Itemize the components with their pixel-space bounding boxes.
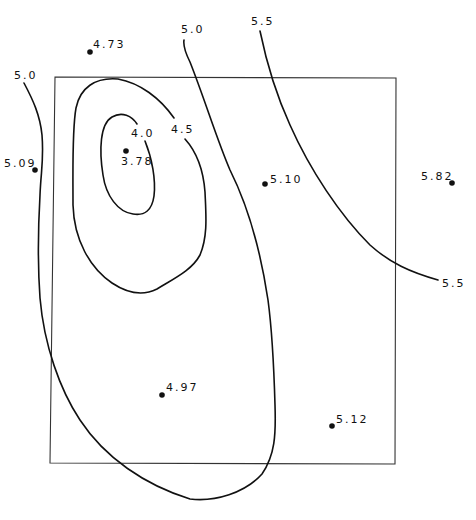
data-point-value: 5.10	[270, 173, 303, 186]
data-point-value: 4.97	[166, 381, 199, 394]
data-point-marker	[123, 148, 129, 154]
contour-5-5	[260, 31, 438, 280]
contour-map: 5.0 5.0 5.5 4.0 4.5 5.5 4.73 5.09 3.78 5…	[0, 0, 476, 520]
data-point-value: 5.12	[336, 413, 369, 426]
data-point-marker	[262, 181, 268, 187]
contour-4-5	[73, 79, 206, 293]
contour-5-0	[24, 40, 275, 500]
data-point-value: 5.82	[421, 170, 454, 183]
contour-label-5-5-top: 5.5	[251, 15, 275, 28]
data-point-marker	[87, 49, 93, 55]
contour-labels: 5.0 5.0 5.5 4.0 4.5 5.5	[14, 15, 466, 290]
data-point-value: 5.09	[4, 157, 37, 170]
data-points: 4.73 5.09 3.78 5.10 5.82 4.97 5.12	[4, 38, 455, 429]
contour-label-5-0-left: 5.0	[14, 69, 38, 82]
data-point-value: 3.78	[121, 155, 154, 168]
contour-label-5-5-right: 5.5	[442, 277, 466, 290]
contour-label-4-5: 4.5	[171, 123, 195, 136]
data-point-marker	[159, 392, 165, 398]
data-point-value: 4.73	[93, 38, 126, 51]
contour-label-5-0-top: 5.0	[181, 23, 205, 36]
contour-label-4-0: 4.0	[131, 127, 155, 140]
data-point-marker	[329, 423, 335, 429]
